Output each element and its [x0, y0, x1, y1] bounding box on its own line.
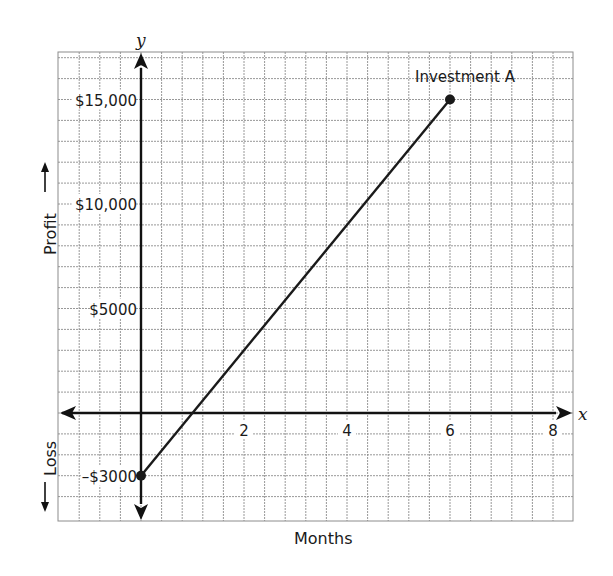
x-axis-variable-label: x [578, 404, 588, 424]
x-tick-label: 6 [445, 422, 455, 440]
y-axis-variable-label: y [135, 30, 146, 50]
x-axis-right-arrow-icon [556, 406, 572, 420]
x-axis-title: Months [294, 529, 352, 548]
y-tick-label: $10,000 [75, 196, 137, 214]
data-point-marker [445, 95, 455, 105]
grid-frame [58, 52, 573, 521]
line-chart: 2468$15,000$10,000$5000–$3000 y x Invest… [0, 0, 613, 576]
axes [60, 53, 572, 520]
x-tick-label: 4 [342, 422, 352, 440]
series-label-investment-a: Investment A [415, 68, 516, 86]
x-tick-label: 8 [548, 422, 558, 440]
y-tick-label: $15,000 [75, 92, 137, 110]
profit-label: Profit [41, 213, 60, 255]
profit-axis-title: Profit [41, 213, 60, 255]
data-point-marker [136, 471, 146, 481]
loss-arrow-icon [41, 482, 49, 512]
x-tick-label: 2 [239, 422, 249, 440]
y-axis-up-arrow-icon [134, 53, 148, 69]
profit-arrow-icon [41, 162, 49, 192]
y-tick-label: $5000 [89, 301, 137, 319]
loss-label: Loss [41, 441, 60, 476]
loss-axis-title: Loss [41, 441, 60, 476]
y-tick-label: –$3000 [82, 468, 137, 486]
grid [58, 52, 573, 521]
